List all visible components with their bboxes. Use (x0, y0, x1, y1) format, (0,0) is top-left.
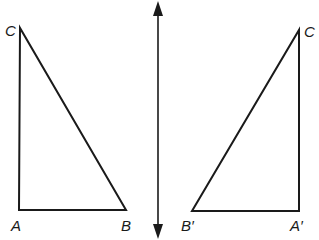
arrow-down-icon (153, 224, 163, 239)
vertex-label-c-prime: C (304, 24, 315, 39)
arrow-up-icon (153, 1, 163, 16)
vertex-label-c: C (5, 23, 16, 38)
triangle-a-prime-b-prime-c-prime (192, 30, 299, 211)
triangle-abc (19, 28, 126, 210)
reflection-line (153, 1, 163, 239)
vertex-label-b-prime: B′ (181, 218, 194, 233)
reflection-diagram (0, 0, 319, 240)
vertex-label-a-prime: A′ (290, 218, 303, 233)
vertex-label-a: A (11, 218, 21, 233)
vertex-label-b: B (121, 218, 131, 233)
